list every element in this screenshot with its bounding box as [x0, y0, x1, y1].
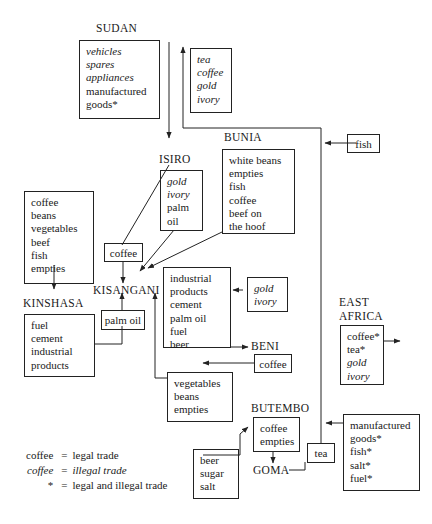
- legend-row: *=legal and illegal trade: [26, 478, 170, 493]
- node-box-sudan[interactable]: vehiclessparesappliancesmanufacturedgood…: [79, 40, 160, 119]
- commodity-item: fuel: [170, 325, 224, 338]
- node-box-beer-sugar-salt[interactable]: beersugarsalt: [193, 449, 239, 499]
- node-label-bunia: BUNIA: [224, 131, 262, 143]
- node-box-sudan-inbound[interactable]: teacoffeegoldivory: [190, 48, 232, 113]
- commodity-item: fish*: [350, 445, 413, 458]
- flow-bunia-to-kisangani: [148, 232, 222, 268]
- commodity-item: vehicles: [86, 45, 153, 58]
- node-box-kisangani-exports-west[interactable]: coffeebeansvegetablesbeeffishempties: [24, 191, 94, 284]
- commodity-item: white beans: [229, 154, 288, 167]
- node-items-butembo: coffeeempties: [254, 418, 299, 452]
- node-box-isiro[interactable]: goldivorypalmoil: [160, 170, 203, 231]
- commodity-item: beef: [31, 236, 87, 249]
- commodity-item: gold: [347, 356, 377, 369]
- commodity-item: gold: [197, 79, 225, 92]
- commodity-item: gold: [167, 175, 196, 188]
- commodity-item: gold: [254, 282, 281, 295]
- flow-goma-to-tea: [289, 462, 305, 470]
- commodity-item: the hoof: [229, 220, 288, 233]
- node-box-east-africa[interactable]: coffee*tea*goldivory: [340, 325, 384, 385]
- commodity-item: palm oil: [170, 312, 224, 325]
- legend-key: coffee: [26, 463, 56, 478]
- commodity-item: coffee: [229, 194, 288, 207]
- commodity-item: sugar: [200, 467, 232, 480]
- commodity-item: beans: [31, 209, 87, 222]
- commodity-item: ivory: [347, 370, 377, 383]
- commodity-item: beer: [200, 454, 232, 467]
- legend-value: legal and illegal trade: [73, 478, 171, 493]
- node-items-sudan: vehiclessparesappliancesmanufacturedgood…: [80, 41, 159, 115]
- node-box-tea[interactable]: tea: [307, 443, 335, 463]
- commodity-item: ivory: [167, 188, 196, 201]
- commodity-item: empties: [174, 403, 226, 416]
- commodity-item: beef on: [229, 207, 288, 220]
- commodity-item: products: [31, 359, 88, 372]
- flow-isiro-to-kisangani: [140, 230, 174, 271]
- legend-key: *: [26, 478, 56, 493]
- commodity-item: fuel: [31, 319, 88, 332]
- commodity-item: tea*: [347, 343, 377, 356]
- commodity-item: fuel*: [350, 472, 413, 485]
- commodity-item: ivory: [197, 93, 225, 106]
- node-box-manufactured[interactable]: manufacturedgoods*fish*salt*fuel*: [343, 414, 420, 491]
- node-label-kinshasa: KINSHASA: [23, 297, 84, 309]
- node-box-gold-ivory[interactable]: goldivory: [247, 277, 288, 312]
- commodity-item: cement: [31, 332, 88, 345]
- commodity-item: industrial: [170, 272, 224, 285]
- flow-beer-to-butembo: [240, 427, 248, 434]
- node-label-isiro: ISIRO: [159, 153, 191, 165]
- node-items-manufactured: manufacturedgoods*fish*salt*fuel*: [344, 415, 419, 489]
- node-box-kisangani-goods[interactable]: industrialproductscementpalm oilfuelbeer: [163, 267, 231, 348]
- commodity-item: coffee: [31, 196, 87, 209]
- node-items-beer-sugar-salt: beersugarsalt: [194, 450, 238, 498]
- node-label-beni: BENI: [251, 340, 279, 352]
- commodity-item: products: [170, 285, 224, 298]
- legend-table: coffee=legal tradecoffee=illegal trade*=…: [26, 448, 170, 493]
- node-items-kinshasa: fuelcementindustrialproducts: [25, 315, 94, 376]
- legend-equals: =: [56, 448, 72, 463]
- commodity-item: coffee: [197, 66, 225, 79]
- trade-flow-diagram: SUDAN vehiclessparesappliancesmanufactur…: [0, 0, 432, 524]
- commodity-item: empties: [229, 167, 288, 180]
- node-items-exports-west: coffeebeansvegetablesbeeffishempties: [25, 192, 93, 279]
- node-box-butembo[interactable]: coffeeempties: [253, 417, 300, 452]
- node-items-gold-ivory: goldivory: [248, 278, 287, 312]
- commodity-item: empties: [31, 262, 87, 275]
- commodity-item: appliances: [86, 71, 153, 84]
- node-items-sudan-inbound: teacoffeegoldivory: [191, 49, 231, 110]
- node-label-sudan: SUDAN: [96, 22, 137, 34]
- node-items-vegetables: vegetablesbeansempties: [168, 373, 232, 421]
- legend-value: illegal trade: [73, 463, 171, 478]
- node-box-coffee-isiro[interactable]: coffee: [104, 243, 143, 262]
- commodity-item: goods*: [350, 432, 413, 445]
- commodity-item: ivory: [254, 295, 281, 308]
- commodity-item: empties: [260, 435, 293, 448]
- node-box-palm-oil[interactable]: palm oil: [101, 310, 145, 330]
- node-box-coffee-beni[interactable]: coffee: [254, 354, 292, 373]
- commodity-item: goods*: [86, 98, 153, 111]
- node-box-kinshasa[interactable]: fuelcementindustrialproducts: [24, 314, 95, 377]
- commodity-item: industrial: [31, 345, 88, 358]
- node-items-east-africa: coffee*tea*goldivory: [341, 326, 383, 387]
- commodity-item: coffee*: [347, 330, 377, 343]
- commodity-item: salt*: [350, 459, 413, 472]
- node-box-fish[interactable]: fish: [347, 134, 380, 153]
- commodity-item: beer: [170, 338, 224, 351]
- commodity-item: fish: [31, 249, 87, 262]
- node-label-goma: GOMA: [253, 464, 289, 476]
- commodity-item: salt: [200, 480, 232, 493]
- commodity-item: vegetables: [174, 377, 226, 390]
- node-label-east-africa-line1: EAST: [339, 296, 369, 308]
- commodity-item: beans: [174, 390, 226, 403]
- node-box-bunia[interactable]: white beansemptiesfishcoffeebeef onthe h…: [222, 149, 295, 234]
- commodity-item: manufactured: [86, 85, 153, 98]
- commodity-item: palm: [167, 201, 196, 214]
- node-box-vegetables[interactable]: vegetablesbeansempties: [167, 372, 233, 422]
- commodity-item: fish: [229, 180, 288, 193]
- commodity-item: cement: [170, 298, 224, 311]
- node-items-kisangani-goods: industrialproductscementpalm oilfuelbeer: [164, 268, 230, 355]
- commodity-item: spares: [86, 58, 153, 71]
- node-label-coffee-isiro: coffee: [110, 247, 137, 259]
- commodity-item: oil: [167, 215, 196, 228]
- node-items-isiro: goldivorypalmoil: [161, 171, 202, 232]
